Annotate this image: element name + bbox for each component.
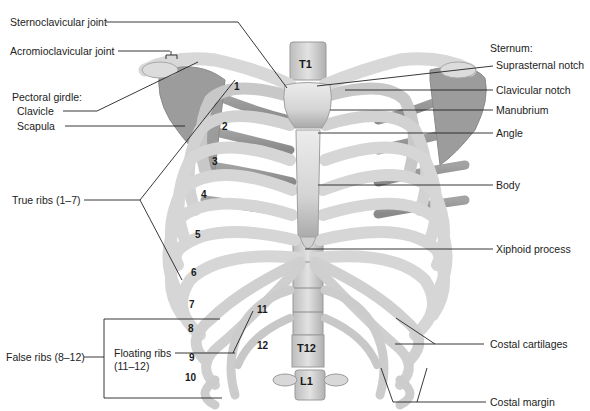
rib-number-1: 1 bbox=[234, 82, 240, 92]
label-costal-margin: Costal margin bbox=[490, 396, 555, 408]
rib-number-9: 9 bbox=[189, 353, 195, 363]
rib-number-11: 11 bbox=[257, 305, 268, 315]
label-costal-cartilages: Costal cartilages bbox=[490, 338, 568, 350]
label-scapula: Scapula bbox=[17, 120, 55, 132]
label-true-ribs: True ribs (1–7) bbox=[12, 194, 80, 206]
label-sternoclavicular-joint: Sternoclavicular joint bbox=[10, 16, 107, 28]
rib-number-12: 12 bbox=[257, 341, 268, 351]
label-suprasternal-notch: Suprasternal notch bbox=[496, 59, 584, 71]
label-floating-ribs: Floating ribs bbox=[114, 347, 171, 359]
label-clavicular-notch: Clavicular notch bbox=[496, 84, 571, 96]
label-pectoral-girdle: Pectoral girdle: bbox=[12, 91, 82, 103]
thoracic-cage-diagram: Sternoclavicular joint Acromioclavicular… bbox=[0, 0, 590, 411]
rib-number-6: 6 bbox=[191, 268, 197, 278]
rib-number-7: 7 bbox=[189, 300, 195, 310]
label-false-ribs: False ribs (8–12) bbox=[6, 351, 85, 363]
vertebra-l1: L1 bbox=[300, 376, 313, 387]
rib-number-8: 8 bbox=[188, 324, 194, 334]
rib-number-10: 10 bbox=[185, 373, 196, 383]
left-acromion bbox=[142, 62, 178, 78]
label-manubrium: Manubrium bbox=[496, 104, 549, 116]
label-clavicle: Clavicle bbox=[17, 105, 54, 117]
rib-number-3: 3 bbox=[212, 157, 218, 167]
rib-number-2: 2 bbox=[222, 122, 228, 132]
rib-number-4: 4 bbox=[201, 190, 207, 200]
vertebra-t1: T1 bbox=[299, 59, 312, 70]
label-sternum: Sternum: bbox=[490, 42, 533, 54]
vertebra-t12: T12 bbox=[297, 343, 316, 354]
rib-number-5: 5 bbox=[195, 230, 201, 240]
right-scapula bbox=[430, 66, 486, 165]
label-acromioclavicular-joint: Acromioclavicular joint bbox=[10, 45, 114, 57]
label-xiphoid-process: Xiphoid process bbox=[496, 243, 571, 255]
label-angle: Angle bbox=[496, 127, 523, 139]
label-body: Body bbox=[496, 179, 520, 191]
label-floating-ribs-range: (11–12) bbox=[114, 360, 149, 372]
